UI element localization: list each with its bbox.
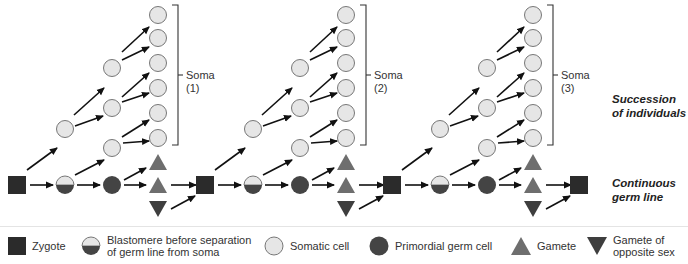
somatic-cell-icon	[104, 60, 121, 77]
legend-label: Somatic cell	[290, 240, 349, 252]
somatic-cell-icon	[338, 130, 355, 147]
gamete-icon	[149, 154, 167, 170]
legend-item-zygote: Zygote	[8, 227, 66, 264]
zygote-icon	[8, 176, 26, 194]
somatic-cell-icon	[525, 130, 542, 147]
arrow-icon	[449, 88, 479, 115]
somatic-cell-icon	[525, 30, 542, 47]
arrow-icon	[75, 160, 104, 175]
zygote-square-icon	[8, 237, 26, 255]
legend-label: Gamete ofopposite sex	[613, 234, 675, 258]
somatic-cell-icon	[57, 121, 74, 138]
germ-line-diagram	[0, 0, 688, 226]
legend-item-somatic: Somatic cell	[264, 227, 349, 264]
arrow-icon	[497, 120, 524, 137]
soma-label-2: Soma(2)	[374, 69, 403, 95]
somatic-cell-icon	[338, 7, 355, 24]
arrow-icon	[122, 120, 149, 137]
arrow-icon	[74, 88, 104, 115]
arrow-icon	[262, 88, 292, 115]
somatic-cell-icon	[338, 105, 355, 122]
somatic-cell-icon	[150, 130, 167, 147]
soma-label-1: Soma(1)	[186, 69, 215, 95]
arrow-icon	[450, 160, 479, 175]
arrow-icon	[310, 73, 337, 97]
somatic-cell-icon	[150, 80, 167, 97]
soma-bracket	[360, 5, 366, 145]
somatic-cell-icon	[292, 140, 309, 157]
arrow-icon	[499, 168, 521, 180]
somatic-cell-icon	[525, 7, 542, 24]
blastomere-bottom-icon	[244, 185, 262, 194]
arrow-icon	[27, 148, 57, 170]
legend-item-blastomere: Blastomere before separationof germ line…	[81, 227, 251, 264]
somatic-cell-icon	[104, 100, 121, 117]
legend-label: Blastomere before separationof germ line…	[107, 234, 251, 258]
somatic-cell-icon	[338, 55, 355, 72]
arrow-icon	[75, 116, 103, 126]
somatic-cell-icon	[432, 121, 449, 138]
somatic-cell-icon	[479, 60, 496, 77]
soma-bracket	[172, 5, 178, 145]
arrow-icon	[546, 196, 570, 209]
arrow-icon	[402, 148, 432, 170]
gamete-opposite-sex-icon	[149, 201, 167, 217]
arrow-icon	[498, 141, 524, 143]
blastomere-bottom-icon	[431, 185, 449, 194]
arrow-icon	[123, 141, 149, 143]
arrow-icon	[215, 148, 245, 170]
somatic-cell-icon	[245, 121, 262, 138]
primordial-germ-cell-icon	[103, 176, 121, 194]
legend: Zygote Blastomere before separationof ge…	[0, 226, 688, 264]
blastomere-top-icon	[244, 176, 262, 185]
legend-label: Zygote	[32, 240, 66, 252]
somatic-cell-icon	[525, 105, 542, 122]
legend-label: Primordial germ cell	[395, 240, 492, 252]
somatic-cell-icon	[104, 140, 121, 157]
soma-bracket	[547, 5, 553, 145]
somatic-cell-icon	[338, 30, 355, 47]
somatic-cell-icon	[150, 7, 167, 24]
gamete-opposite-triangle-icon	[587, 237, 607, 255]
gamete-icon	[337, 177, 355, 193]
somatic-cell-icon	[292, 100, 309, 117]
gamete-icon	[337, 154, 355, 170]
arrow-icon	[311, 141, 337, 143]
somatic-cell-icon	[150, 30, 167, 47]
legend-item-primordial: Primordial germ cell	[369, 227, 492, 264]
arrow-icon	[312, 168, 334, 180]
primordial-germ-circle-icon	[369, 236, 389, 256]
primordial-germ-cell-icon	[478, 176, 496, 194]
germline-label: Continuous germ line	[612, 176, 676, 204]
somatic-cell-icon	[525, 55, 542, 72]
primordial-germ-cell-icon	[291, 176, 309, 194]
gamete-icon	[524, 154, 542, 170]
legend-item-gamete-opposite: Gamete ofopposite sex	[587, 227, 675, 264]
somatic-cell-icon	[525, 80, 542, 97]
legend-item-gamete: Gamete	[511, 227, 576, 264]
somatic-cell-icon	[150, 105, 167, 122]
gamete-icon	[524, 177, 542, 193]
legend-label: Gamete	[537, 240, 576, 252]
arrow-icon	[122, 73, 149, 97]
zygote-icon	[196, 176, 214, 194]
somatic-cell-icon	[479, 140, 496, 157]
arrow-icon	[171, 196, 195, 209]
blastomere-top-icon	[431, 176, 449, 185]
arrow-icon	[124, 168, 146, 180]
somatic-cell-icon	[338, 80, 355, 97]
blastomere-top-icon	[56, 176, 74, 185]
arrow-icon	[359, 196, 383, 209]
gamete-icon	[149, 177, 167, 193]
somatic-cell-icon	[292, 60, 309, 77]
soma-label-3: Soma(3)	[561, 69, 590, 95]
somatic-cell-icon	[150, 55, 167, 72]
zygote-icon	[570, 176, 588, 194]
blastomere-bottom-icon	[56, 185, 74, 194]
arrow-icon	[310, 120, 337, 137]
gamete-opposite-sex-icon	[337, 201, 355, 217]
arrow-icon	[263, 160, 292, 175]
arrow-icon	[497, 73, 524, 97]
arrow-icon	[450, 116, 478, 126]
zygote-icon	[383, 176, 401, 194]
